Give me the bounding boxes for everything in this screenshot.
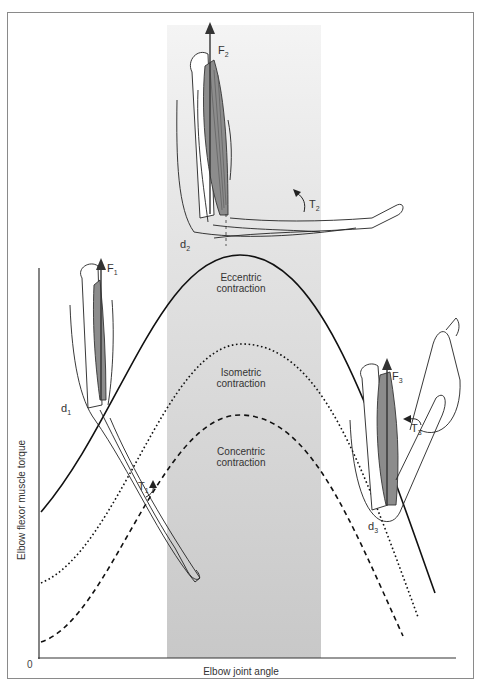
f1-letter: F — [107, 262, 114, 274]
t2-letter: T — [309, 198, 316, 210]
label-t1: T1 — [138, 480, 149, 494]
torque-angle-diagram — [0, 0, 482, 688]
torque-arrowhead-t3 — [403, 415, 411, 423]
isometric-label-line2: contraction — [210, 378, 272, 389]
force-arrowhead-f3 — [382, 358, 392, 370]
label-t3: T3 — [411, 422, 422, 436]
label-d1: d1 — [61, 402, 71, 416]
eccentric-label-line2: contraction — [210, 283, 272, 294]
label-t2: T2 — [309, 198, 320, 212]
t2-sub: 2 — [316, 205, 320, 212]
d3-sub: 3 — [374, 527, 378, 534]
isometric-label-line1: Isometric — [210, 367, 272, 378]
d1-sub: 1 — [67, 409, 71, 416]
label-f2: F2 — [218, 44, 229, 58]
y-axis-label: Elbow flexor muscle torque — [16, 440, 27, 560]
t1-letter: T — [138, 480, 145, 492]
force-arrowhead-f1 — [96, 258, 106, 270]
t3-sub: 3 — [418, 429, 422, 436]
x-axis-label: Elbow joint angle — [0, 666, 482, 677]
label-d3: d3 — [368, 520, 378, 534]
label-d2: d2 — [180, 238, 190, 252]
origin-label: 0 — [27, 659, 33, 670]
t3-letter: T — [411, 422, 418, 434]
f3-letter: F — [392, 370, 399, 382]
isometric-label: Isometric contraction — [210, 367, 272, 389]
f2-letter: F — [218, 44, 225, 56]
label-f1: F1 — [107, 262, 118, 276]
concentric-label-line2: contraction — [210, 457, 272, 468]
concentric-label-line1: Concentric — [210, 446, 272, 457]
f1-sub: 1 — [114, 269, 118, 276]
torque-arrowhead-t1 — [149, 480, 157, 488]
t1-sub: 1 — [145, 487, 149, 494]
concentric-label: Concentric contraction — [210, 446, 272, 468]
label-f3: F3 — [392, 370, 403, 384]
d2-sub: 2 — [186, 245, 190, 252]
eccentric-label: Eccentric contraction — [210, 272, 272, 294]
f3-sub: 3 — [399, 377, 403, 384]
f2-sub: 2 — [225, 51, 229, 58]
eccentric-label-line1: Eccentric — [210, 272, 272, 283]
